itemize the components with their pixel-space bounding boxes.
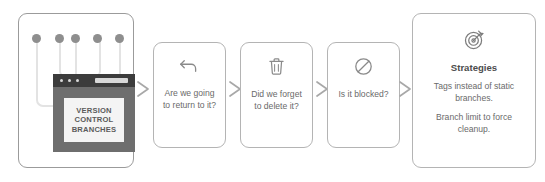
screen-line-1: VERSION (76, 106, 112, 115)
question-card-blocked[interactable]: Is it blocked? (327, 42, 400, 148)
strategies-line-1: Tags instead of static branches. (413, 80, 535, 104)
strategies-title: Strategies (451, 62, 497, 73)
trash-icon (268, 57, 285, 80)
browser-screen-label: VERSION CONTROL BRANCHES (64, 98, 124, 142)
question-card-return-label: Are we going to return to it? (154, 87, 225, 112)
browser-window-mock: VERSION CONTROL BRANCHES (53, 74, 135, 152)
branch-pin-1 (32, 34, 41, 43)
screen-line-3: BRANCHES (72, 125, 117, 134)
target-icon (463, 28, 486, 55)
branch-pin-4 (93, 34, 102, 43)
strategies-card[interactable]: Strategies Tags instead of static branch… (412, 13, 536, 168)
browser-dot-3 (76, 79, 79, 82)
question-card-delete[interactable]: Did we forget to delete it? (240, 42, 313, 148)
browser-titlebar (53, 74, 135, 87)
question-card-blocked-label: Is it blocked? (331, 88, 395, 100)
browser-dot-1 (60, 79, 63, 82)
question-card-return[interactable]: Are we going to return to it? (153, 42, 226, 148)
strategies-line-2: Branch limit to force cleanup. (413, 111, 535, 135)
flow-arrow-1 (136, 79, 152, 103)
branch-line-center (75, 41, 77, 75)
version-control-branches-illustration: VERSION CONTROL BRANCHES (18, 13, 134, 168)
branch-line-left-inner (59, 41, 75, 77)
branch-pin-3 (71, 34, 80, 43)
undo-arrow-icon (179, 57, 200, 79)
blocked-icon (354, 57, 373, 80)
browser-address-bar (95, 78, 128, 83)
browser-dot-2 (68, 79, 71, 82)
diagram-canvas: VERSION CONTROL BRANCHES Are we going to… (0, 0, 545, 182)
branch-pin-2 (55, 34, 64, 43)
branch-pin-5 (115, 34, 124, 43)
screen-line-2: CONTROL (75, 115, 114, 124)
question-card-delete-label: Did we forget to delete it? (241, 88, 312, 113)
